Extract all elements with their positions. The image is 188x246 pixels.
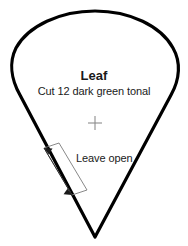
pattern-sheet: Leaf Cut 12 dark green tonal Leave open [0,0,188,246]
pattern-drawing [0,0,188,246]
